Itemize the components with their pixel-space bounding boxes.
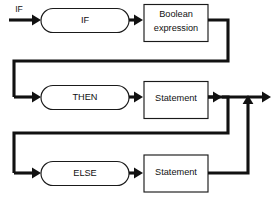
connector-if-to-boolean — [129, 15, 143, 26]
node-nonterminal-boolean-expression-label-line2: expression — [154, 23, 198, 33]
arrow-right-icon — [32, 168, 41, 179]
node-nonterminal-statement-else[interactable]: Statement — [144, 155, 208, 192]
connector-else-to-statement — [129, 168, 143, 179]
arrow-right-icon — [134, 92, 143, 103]
arrow-right-icon — [134, 15, 143, 26]
node-terminal-then-label: THEN — [72, 92, 97, 102]
node-nonterminal-statement-then[interactable]: Statement — [144, 82, 208, 119]
entry-track — [9, 15, 41, 26]
arrow-right-icon — [32, 92, 41, 103]
railroad-diagram-canvas: IF IF Boolean expression THEN — [0, 0, 278, 203]
node-terminal-else-label: ELSE — [73, 168, 97, 178]
node-terminal-else[interactable]: ELSE — [41, 162, 129, 186]
arrow-right-icon — [262, 92, 271, 103]
node-nonterminal-statement-then-label: Statement — [155, 93, 197, 103]
node-nonterminal-boolean-expression-label-line1: Boolean — [159, 9, 193, 19]
entry-label: IF — [15, 4, 23, 14]
node-nonterminal-boolean-expression[interactable]: Boolean expression — [144, 5, 208, 42]
arrow-right-icon — [32, 15, 41, 26]
syntax-diagram: IF IF Boolean expression THEN — [0, 0, 278, 203]
node-nonterminal-statement-else-label: Statement — [155, 167, 197, 177]
node-terminal-then[interactable]: THEN — [41, 86, 129, 110]
connector-then-to-statement — [129, 92, 143, 103]
node-terminal-if[interactable]: IF — [41, 9, 129, 33]
node-terminal-if-label: IF — [81, 15, 90, 25]
arrow-right-icon — [134, 168, 143, 179]
